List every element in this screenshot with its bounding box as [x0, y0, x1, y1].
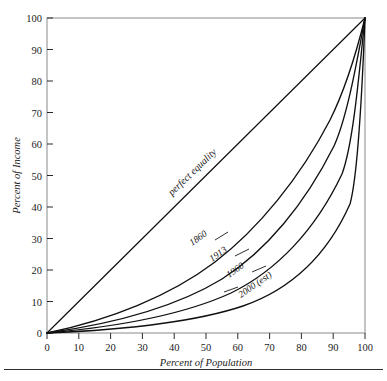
x-tick-label: 60: [233, 342, 244, 353]
x-axis-title: Percent of Population: [159, 357, 252, 368]
x-tick-label: 70: [264, 342, 275, 353]
caption-divider-rule: [4, 369, 383, 370]
y-tick-label: 80: [32, 76, 43, 87]
y-axis-title: Percent of Income: [11, 137, 22, 215]
x-tick-label: 20: [105, 342, 116, 353]
y-tick-label: 70: [32, 108, 43, 119]
x-axis-ticks: [47, 333, 365, 339]
y-tick-label: 50: [32, 171, 43, 182]
x-tick-label: 40: [169, 342, 180, 353]
y-tick-label: 40: [32, 202, 43, 213]
x-tick-label: 80: [296, 342, 307, 353]
y-tick-label: 60: [32, 139, 43, 150]
x-tick-label: 100: [357, 342, 373, 353]
y-tick-label: 10: [32, 297, 43, 308]
chart-canvas: 100 90 80 70 60 50 40 30 20 10 0: [0, 0, 387, 381]
y-axis-tick-labels: 100 90 80 70 60 50 40 30 20 10 0: [26, 13, 42, 339]
x-tick-label: 0: [44, 342, 49, 353]
x-tick-label: 30: [137, 342, 148, 353]
y-tick-label: 20: [32, 265, 43, 276]
x-tick-label: 50: [201, 342, 212, 353]
x-tick-label: 90: [328, 342, 339, 353]
y-tick-label: 30: [32, 234, 43, 245]
y-tick-label: 100: [26, 13, 42, 24]
lorenz-curve-figure: 100 90 80 70 60 50 40 30 20 10 0: [0, 0, 387, 381]
y-tick-label: 90: [32, 45, 43, 56]
x-tick-label: 10: [74, 342, 85, 353]
y-tick-label: 0: [37, 328, 42, 339]
x-axis-tick-labels: 0 10 20 30 40 50 60 70 80 90 100: [44, 342, 373, 353]
